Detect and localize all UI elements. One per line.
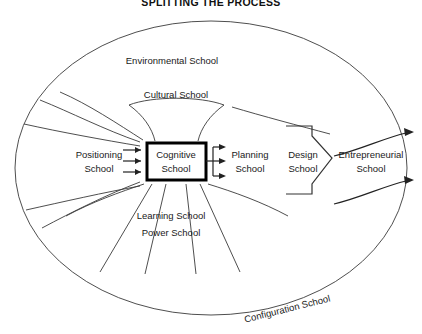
input-arrow-group	[123, 147, 141, 175]
label-design-school-line1: Design	[288, 149, 318, 160]
exit-arrow-lower-line	[334, 181, 406, 204]
upper-left-curve-1	[40, 100, 140, 142]
label-learning-school: Learning School	[137, 210, 206, 221]
label-planning-school-line2: School	[235, 163, 264, 174]
input-arrow-3-head	[135, 169, 141, 175]
lower-fan-left-edge	[66, 184, 144, 216]
label-positioning-school-line1: Positioning	[76, 149, 122, 160]
upper-left-curve-2	[60, 92, 143, 140]
label-positioning-school-line2: School	[84, 163, 113, 174]
exit-arrow-lower-head	[404, 176, 414, 184]
label-cultural-school: Cultural School	[144, 89, 208, 100]
output-arrow-2-head	[219, 158, 226, 164]
lower-fan-right-edge	[208, 184, 288, 216]
upper-right-curve	[232, 107, 330, 134]
lower-left-curve-2	[26, 186, 140, 210]
upper-funnel-right-edge	[198, 105, 224, 141]
input-arrow-2-head	[135, 158, 141, 164]
label-entrepreneurial-school-line2: School	[356, 163, 385, 174]
label-cognitive-school-line1: Cognitive	[156, 149, 196, 160]
label-configuration-school: Configuration School	[243, 293, 331, 325]
exit-arrow-upper-head	[404, 128, 414, 136]
diagram-root: SPLITTING THE PROCESS	[0, 0, 422, 334]
output-arrow-1-head	[219, 144, 226, 150]
label-power-school: Power School	[142, 227, 201, 238]
large-chevron-arrow	[286, 126, 332, 194]
label-planning-school-line1: Planning	[232, 149, 269, 160]
label-design-school-line2: School	[288, 163, 317, 174]
output-arrow-group	[206, 144, 226, 179]
label-entrepreneurial-school-line1: Entrepreneurial	[339, 149, 404, 160]
label-environmental-school: Environmental School	[126, 55, 218, 66]
diagram-canvas: Environmental School Cultural School Pos…	[0, 0, 422, 334]
input-arrow-1-head	[135, 147, 141, 153]
label-cognitive-school-line2: School	[161, 163, 190, 174]
output-arrow-3-head	[219, 173, 226, 179]
lower-fan-line-4	[200, 184, 240, 272]
upper-funnel-left-edge	[129, 105, 155, 141]
